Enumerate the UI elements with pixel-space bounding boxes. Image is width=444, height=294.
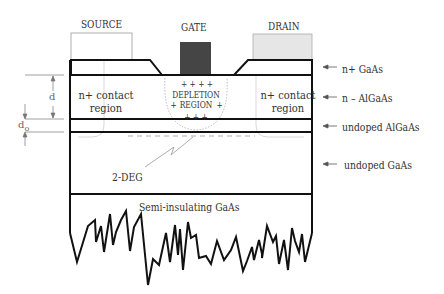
substrate-jagged-edge bbox=[70, 211, 312, 285]
dimension-d-label: d bbox=[49, 92, 55, 102]
left-contact-region-label: n+ contact region bbox=[77, 90, 135, 114]
source-contact bbox=[71, 33, 132, 60]
right-contact-region-line1: n+ contact bbox=[259, 90, 317, 101]
gate-label: GATE bbox=[181, 22, 207, 33]
depletion-region-line2: REGION bbox=[177, 101, 216, 110]
dimension-markers bbox=[23, 75, 64, 146]
2deg-label: 2-DEG bbox=[112, 172, 143, 183]
depletion-plus-top: + + + + bbox=[171, 80, 224, 89]
left-cap-layer bbox=[71, 60, 162, 75]
layer-label-n-plus-gaas: n+ GaAs bbox=[342, 64, 383, 75]
depletion-plus-bottom: + + + bbox=[178, 113, 213, 122]
left-contact-region-line1: n+ contact bbox=[77, 90, 135, 101]
2deg-pointer-line bbox=[145, 137, 193, 167]
dimension-d0-label: do bbox=[18, 120, 29, 130]
depletion-region-line1: DEPLETION bbox=[169, 91, 224, 100]
gate-contact bbox=[180, 42, 211, 75]
right-contact-region-line2: region bbox=[259, 103, 317, 114]
depletion-plus-right: + bbox=[216, 101, 222, 110]
hemt-cross-section-diagram bbox=[0, 0, 444, 294]
drain-contact bbox=[253, 34, 312, 60]
substrate-label: Semi-insulating GaAs bbox=[139, 202, 239, 213]
right-cap-layer bbox=[234, 60, 312, 75]
layer-label-undoped-algaas: undoped AlGaAs bbox=[342, 122, 420, 133]
drain-label: DRAIN bbox=[268, 21, 300, 32]
dimension-d0-subscript: o bbox=[24, 124, 29, 133]
layer-arrows bbox=[323, 65, 337, 166]
right-contact-region-label: n+ contact region bbox=[259, 90, 317, 114]
left-contact-region-line2: region bbox=[77, 103, 135, 114]
source-label: SOURCE bbox=[81, 19, 122, 30]
layer-label-n-algaas: n – AlGaAs bbox=[342, 93, 392, 104]
layer-label-undoped-gaas: undoped GaAs bbox=[344, 160, 412, 171]
